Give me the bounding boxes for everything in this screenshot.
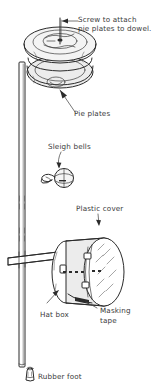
sleigh-bells-leader [56, 152, 61, 169]
label-plastic-cover: Plastic cover [76, 204, 123, 213]
label-screw-line1: Screw to attach [78, 15, 137, 24]
hat-box-shape [52, 238, 124, 306]
label-pie-plates: Pie plates [74, 109, 110, 118]
dowel-shape [19, 62, 25, 367]
label-screw-line2: pie plates to dowel. [78, 24, 152, 33]
label-sleigh-bells: Sleigh bells [48, 142, 91, 151]
sleigh-bell-shape [41, 169, 73, 188]
label-masking-tape-line2: tape [100, 316, 117, 325]
diagram-canvas: Screw to attach pie plates to dowel. Pie… [0, 0, 163, 390]
screw-leader [62, 19, 78, 24]
pie-plates-leader [60, 90, 75, 112]
plastic-cover-leader [96, 214, 101, 226]
label-masking-tape-line1: Masking [100, 306, 131, 315]
diagram-artwork [0, 0, 163, 390]
label-rubber-foot: Rubber foot [38, 372, 82, 381]
label-hat-box: Hat box [40, 310, 69, 319]
